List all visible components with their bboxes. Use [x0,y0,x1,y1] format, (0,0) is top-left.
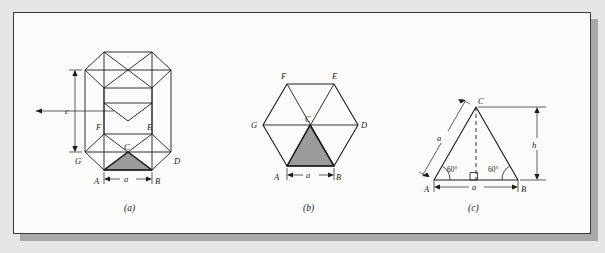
label-c: c [65,106,69,116]
label-a-panel-a: a [124,174,128,184]
label-a-panel-b: a [306,170,310,180]
label-C-a: C [124,142,130,152]
label-B-b: B [336,172,341,182]
label-angle-right: 60° [488,165,499,174]
figure-page: F E C G D A B c [0,0,605,253]
label-A-a: A [93,176,100,186]
dimension-a-slant: a [419,99,470,177]
panel-a-prism: F E C G D A B c [36,52,181,186]
caption-a: (a) [124,203,135,213]
label-A-b: A [273,172,280,182]
label-B-a: B [155,176,160,186]
panel-b-hexagon: F E G D C A B a [251,71,368,182]
shaded-triangle-a [104,152,152,170]
label-E-a: E [146,122,153,132]
label-B-c: B [521,184,526,194]
label-C-b: C [305,114,311,124]
figure-drawing: F E C G D A B c [0,0,605,253]
label-F-a: F [95,122,102,132]
midplane-triangle [104,103,152,121]
label-h: h [532,140,536,150]
panel-c-triangle: 60° 60° a C A B [419,96,546,194]
label-D-b: D [360,120,368,130]
caption-c: (c) [468,203,479,213]
label-a-base: a [472,182,476,192]
caption-b: (b) [303,203,314,213]
label-D-a: D [173,156,181,166]
dimension-a-panel-a: a [104,172,152,184]
label-A-c: A [423,184,430,194]
dimension-c: c [36,70,114,152]
label-a-slant: a [437,133,441,143]
shaded-triangle-b [287,125,334,166]
label-F-b: F [280,71,287,81]
label-E-b: E [331,71,338,81]
label-G-b: G [251,120,257,130]
label-G-a: G [75,156,81,166]
angle-arc-right [502,166,509,180]
label-C-c: C [478,96,484,106]
dimension-a-base: a [434,180,518,192]
label-angle-left: 60° [447,165,458,174]
dimension-a-panel-b: a [287,168,334,180]
